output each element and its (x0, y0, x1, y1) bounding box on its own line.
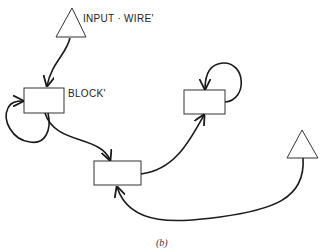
block-3-node (184, 90, 225, 114)
edge-block2-to-block3 (141, 115, 204, 174)
figure-caption: (b) (156, 237, 168, 249)
edge-block1-to-block2 (45, 113, 110, 160)
diagram-canvas: INPUT · WIRE' BLOCK' (b) (0, 0, 326, 252)
block-1-node: BLOCK' (24, 88, 106, 113)
input-wire-label: INPUT · WIRE' (83, 13, 154, 24)
block-2-node (94, 161, 141, 185)
triangle-shape (56, 8, 86, 37)
block-1-rect (24, 88, 64, 113)
edge-input-to-block1 (47, 38, 70, 86)
edge-triangle-to-block2 (117, 158, 303, 221)
block-label: BLOCK' (68, 88, 106, 99)
right-triangle-node (287, 130, 318, 158)
input-triangle-node: INPUT · WIRE' (56, 8, 154, 37)
